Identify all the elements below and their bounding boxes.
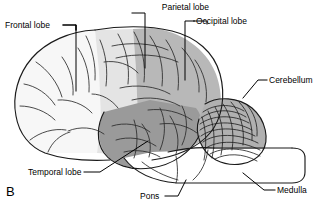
cerebellum-leader <box>243 80 267 98</box>
brain-diagram-svg: Frontal lobe Parietal lobe Occipital lob… <box>0 0 324 206</box>
label-occipital-lobe: Occipital lobe <box>196 16 247 26</box>
label-frontal-lobe: Frontal lobe <box>5 20 50 30</box>
label-medulla: Medulla <box>277 185 307 195</box>
brain-anatomy-figure: Frontal lobe Parietal lobe Occipital lob… <box>0 0 324 206</box>
frontal-lobe-fill <box>15 30 101 153</box>
label-parietal-lobe: Parietal lobe <box>162 2 210 12</box>
label-temporal-lobe: Temporal lobe <box>28 167 82 177</box>
label-pons: Pons <box>140 191 159 201</box>
panel-letter: B <box>6 184 15 199</box>
frontal-leader <box>63 25 76 30</box>
label-cerebellum: Cerebellum <box>269 75 312 85</box>
